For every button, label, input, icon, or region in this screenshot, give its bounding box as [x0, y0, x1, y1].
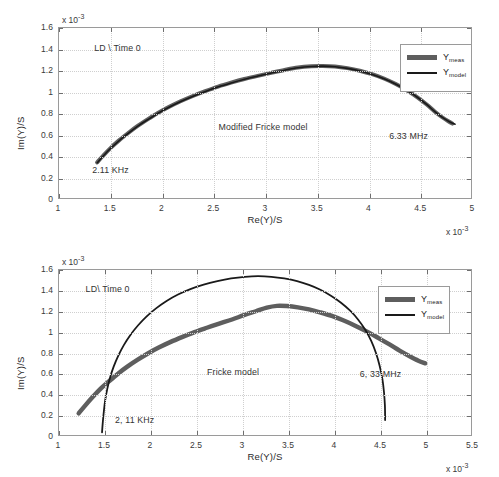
x-axis-tick: [370, 28, 371, 32]
y-tick-label: 0: [26, 194, 53, 204]
x-axis-tick: [59, 431, 60, 435]
y-axis-title-top: Im(Y)/S: [15, 116, 26, 150]
y-tick-label: 0.4: [26, 151, 53, 161]
x-axis-tick: [243, 270, 244, 274]
x-axis-tick: [105, 270, 106, 274]
x-axis-title-top: Re(Y)/S: [247, 214, 282, 225]
y-tick-label: 1.2: [26, 65, 53, 75]
y-axis-tick: [59, 136, 63, 137]
y-axis-tick: [467, 157, 471, 158]
y-tick-label: 1: [26, 87, 53, 97]
gridline-vertical: [163, 28, 164, 198]
y-tick-label: 0.2: [26, 173, 53, 183]
x-tick-label: 1: [56, 440, 61, 450]
x-axis-tick: [111, 194, 112, 198]
x-axis-tick: [318, 28, 319, 32]
y-axis-tick: [467, 291, 471, 292]
y-tick-label: 1.6: [26, 22, 53, 32]
y-axis-tick: [467, 354, 471, 355]
gridline-vertical: [151, 270, 152, 435]
gridline-horizontal: [59, 157, 471, 158]
y-axis-tick: [59, 333, 63, 334]
gridline-vertical: [318, 28, 319, 198]
y-axis-tick: [467, 395, 471, 396]
x-axis-tick: [214, 194, 215, 198]
x-axis-tick: [427, 431, 428, 435]
x-axis-tick: [163, 28, 164, 32]
gridline-horizontal: [59, 93, 471, 94]
y-tick-label: 1.4: [26, 285, 53, 295]
gridline-horizontal: [59, 395, 471, 396]
x-axis-tick: [381, 270, 382, 274]
y-tick-label: 0.6: [26, 130, 53, 140]
plot-annotation-0: LD \ Time 0: [94, 43, 141, 53]
y-tick-label: 0.4: [26, 389, 53, 399]
x-tick-label: 1.5: [98, 440, 110, 450]
y-tick-label: 0: [26, 431, 53, 441]
x-axis-tick: [381, 431, 382, 435]
y-axis-tick: [467, 114, 471, 115]
legend-label-ymeas: Ymeas: [421, 295, 443, 305]
legend-row-ymeas: Ymeas: [407, 50, 464, 65]
x-tick-label: 2.5: [207, 203, 219, 213]
x-axis-tick: [421, 194, 422, 198]
x-tick-label: 3.5: [311, 203, 323, 213]
x-axis-tick: [197, 431, 198, 435]
gridline-vertical: [266, 28, 267, 198]
gridline-vertical: [214, 28, 215, 198]
legend-row-ymeas: Ymeas: [385, 292, 442, 307]
y-axis-tick: [59, 28, 63, 29]
y-axis-tick: [59, 71, 63, 72]
y-tick-label: 0.2: [26, 410, 53, 420]
x-tick-label: 2: [159, 203, 164, 213]
x-axis-tick: [111, 28, 112, 32]
y-tick-label: 0.8: [26, 108, 53, 118]
y-axis-exponent-bottom: x 10-3: [62, 255, 84, 267]
x-tick-label: 1.5: [104, 203, 116, 213]
x-axis-tick: [214, 28, 215, 32]
plot-annotation-2: 2.11 KHz: [92, 165, 129, 175]
x-tick-label: 2.5: [190, 440, 202, 450]
x-tick-label: 2: [148, 440, 153, 450]
plot-annotation-2: 2, 11 KHz: [115, 415, 154, 425]
legend-label-ymodel: Ymodel: [443, 68, 466, 78]
legend-label-ymodel: Ymodel: [421, 310, 444, 320]
y-axis-tick: [467, 136, 471, 137]
x-axis-tick: [266, 28, 267, 32]
y-axis-tick: [59, 312, 63, 313]
plot-annotation-3: 6, 33 MHz: [360, 369, 401, 379]
gridline-horizontal: [59, 114, 471, 115]
y-tick-label: 1: [26, 327, 53, 337]
x-axis-tick: [370, 194, 371, 198]
x-axis-tick: [335, 431, 336, 435]
y-axis-tick: [59, 157, 63, 158]
x-axis-tick: [197, 270, 198, 274]
legend-swatch-ymeas-icon: [385, 297, 415, 302]
x-axis-tick: [266, 194, 267, 198]
x-tick-label: 3: [263, 203, 268, 213]
legend-swatch-ymodel-icon: [407, 72, 437, 74]
legend-row-ymodel: Ymodel: [385, 307, 442, 322]
y-axis-tick: [467, 28, 471, 29]
x-axis-tick: [151, 270, 152, 274]
y-axis-tick: [59, 270, 63, 271]
x-axis-tick: [335, 270, 336, 274]
x-tick-label: 4: [332, 440, 337, 450]
x-axis-tick: [243, 431, 244, 435]
gridline-vertical: [197, 270, 198, 435]
x-axis-tick: [151, 431, 152, 435]
legend-label-ymeas: Ymeas: [443, 53, 465, 63]
x-tick-label: 3.5: [282, 440, 294, 450]
legend-swatch-ymodel-icon: [385, 314, 415, 316]
legend-bottom[interactable]: Ymeas Ymodel: [378, 286, 450, 334]
y-tick-label: 1.6: [26, 264, 53, 274]
gridline-vertical: [335, 270, 336, 435]
legend-top[interactable]: Ymeas Ymodel: [400, 44, 472, 92]
x-axis-tick: [421, 28, 422, 32]
y-axis-tick: [467, 179, 471, 180]
x-axis-exponent-top: x 10-3: [446, 225, 468, 237]
series-y-meas: [79, 306, 426, 414]
gridline-horizontal: [59, 354, 471, 355]
x-tick-label: 4: [366, 203, 371, 213]
y-axis-tick: [59, 50, 63, 51]
